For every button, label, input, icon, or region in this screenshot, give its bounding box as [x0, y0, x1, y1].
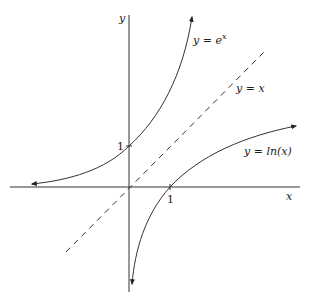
x-tick-label: 1 [167, 193, 174, 206]
y-tick-label: 1 [117, 140, 124, 153]
y-axis-label: y [118, 12, 126, 25]
identity-label: y = x [235, 82, 265, 95]
exp-curve [32, 17, 192, 184]
function-graph: y x 1 1 y = ex y = x y = ln(x) [0, 0, 315, 308]
x-axis-label: x [286, 190, 293, 203]
ln-label: y = ln(x) [243, 145, 292, 158]
exp-label: y = ex [192, 32, 227, 47]
exp-label-main: y = e [192, 34, 222, 47]
exp-label-sup: x [222, 32, 227, 41]
